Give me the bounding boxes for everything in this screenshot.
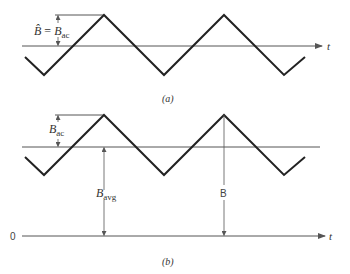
bac-label-b: Bac	[49, 122, 64, 138]
axis-label-t-a: t	[327, 40, 331, 52]
axis-label-t-b: t	[329, 230, 333, 242]
figure-a: t B̂ = Bac (a)	[22, 15, 331, 105]
b-total-label-b: B	[220, 188, 227, 199]
amplitude-label-a: B̂ = Bac	[34, 24, 69, 40]
diagram-canvas: t B̂ = Bac (a) Bac 0 t	[0, 0, 350, 274]
bavg-label-b: Bavg	[96, 186, 117, 202]
zero-label-b: 0	[10, 231, 16, 242]
triangular-waveform-a	[25, 15, 305, 75]
triangular-waveform-b	[25, 115, 305, 175]
caption-a: (a)	[162, 93, 174, 105]
caption-b: (b)	[162, 256, 174, 268]
figure-b: Bac 0 t Bavg B (b)	[10, 115, 333, 268]
